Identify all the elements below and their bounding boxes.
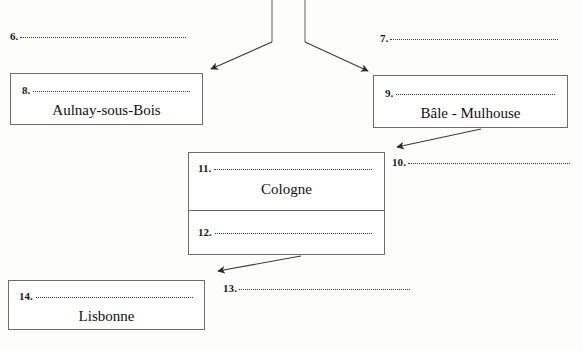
box-14-rule bbox=[36, 296, 193, 298]
box-8-cell: 8. Aulnay-sous-Bois bbox=[11, 74, 202, 124]
blank-6-number: 6. bbox=[10, 31, 20, 42]
box-14-number: 14. bbox=[19, 291, 36, 302]
box-8[interactable]: 8. Aulnay-sous-Bois bbox=[10, 73, 203, 125]
box-14[interactable]: 14. Lisbonne bbox=[8, 280, 205, 330]
blank-7[interactable]: 7. bbox=[380, 33, 558, 44]
box-11-12[interactable]: 11. Cologne 12. bbox=[188, 152, 385, 255]
blank-13-number: 13. bbox=[223, 283, 239, 294]
diagram-canvas: 6. 7. 10. 13. 8. Aulnay-sous-Bois 9. B bbox=[0, 0, 583, 351]
blank-7-rule bbox=[390, 38, 558, 40]
box-9[interactable]: 9. Bâle - Mulhouse bbox=[373, 75, 568, 128]
box-14-blank[interactable]: 14. bbox=[19, 291, 193, 302]
box-9-blank[interactable]: 9. bbox=[385, 88, 555, 99]
box-9-number: 9. bbox=[385, 88, 396, 99]
box-11-cell: 11. Cologne bbox=[189, 153, 384, 211]
blank-10[interactable]: 10. bbox=[392, 157, 570, 168]
box-11-blank[interactable]: 11. bbox=[198, 163, 372, 174]
box-14-city: Lisbonne bbox=[9, 309, 204, 324]
blank-13[interactable]: 13. bbox=[223, 283, 410, 294]
blank-13-rule bbox=[239, 288, 410, 290]
arrow-to-box-11 bbox=[397, 129, 481, 147]
box-8-blank[interactable]: 8. bbox=[22, 85, 190, 96]
blank-7-number: 7. bbox=[380, 33, 390, 44]
box-8-rule bbox=[33, 90, 190, 92]
box-8-city: Aulnay-sous-Bois bbox=[11, 103, 202, 118]
box-9-cell: 9. Bâle - Mulhouse bbox=[374, 76, 567, 127]
box-12-cell: 12. bbox=[189, 211, 384, 255]
blank-6[interactable]: 6. bbox=[10, 31, 186, 42]
box-14-cell: 14. Lisbonne bbox=[9, 281, 204, 329]
box-12-number: 12. bbox=[198, 227, 215, 238]
box-12-rule bbox=[215, 232, 372, 234]
box-9-rule bbox=[396, 93, 555, 95]
blank-10-number: 10. bbox=[392, 157, 408, 168]
box-11-number: 11. bbox=[198, 163, 214, 174]
blank-10-rule bbox=[408, 162, 570, 164]
box-8-number: 8. bbox=[22, 85, 33, 96]
box-11-rule bbox=[214, 168, 372, 170]
box-11-city: Cologne bbox=[189, 182, 384, 197]
arrow-to-box-8 bbox=[211, 42, 272, 69]
arrow-to-box-14 bbox=[218, 256, 301, 271]
box-9-city: Bâle - Mulhouse bbox=[374, 106, 567, 121]
blank-6-rule bbox=[20, 36, 186, 38]
box-12-blank[interactable]: 12. bbox=[198, 227, 372, 238]
arrow-to-box-9 bbox=[305, 42, 368, 71]
